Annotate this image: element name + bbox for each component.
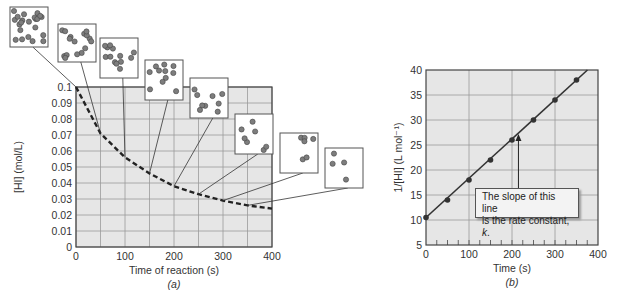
hi-molecule-icon [253,129,258,134]
data-point [509,137,515,143]
panel-label-b: (b) [506,276,519,288]
y-tick-a: 0.06 [52,145,73,157]
hi-molecule-icon [250,119,255,124]
molecule-inset [58,24,96,62]
hi-molecule-icon [84,29,89,34]
molecule-inset [190,78,228,118]
hi-molecule-icon [239,127,244,132]
molecule-inset [100,38,138,78]
y-tick-b: 15 [410,189,422,201]
hi-molecule-icon [33,25,38,30]
molecule-inset [280,133,318,173]
y-tick-a: 0.03 [52,193,73,205]
y-tick-b: 25 [410,139,422,151]
hi-molecule-icon [173,89,178,94]
hi-molecule-icon [41,39,46,44]
x-tick-a: 100 [116,250,134,262]
y-tick-b: 35 [410,89,422,101]
hi-molecule-icon [118,53,123,58]
y-tick-a: 0.1 [57,81,72,93]
y-tick-a: 0.02 [52,209,73,221]
y-tick-a: 0.01 [52,225,73,237]
hi-molecule-icon [30,39,35,44]
x-tick-b: 200 [503,248,521,260]
hi-molecule-icon [18,28,23,33]
y-tick-a: 0 [66,241,72,253]
hi-molecule-icon [13,37,18,42]
hi-molecule-icon [67,36,72,41]
hi-molecule-icon [304,155,309,160]
x-tick-a: 400 [263,250,281,262]
y-tick-b: 10 [410,214,422,226]
hi-molecule-icon [72,39,77,44]
hi-molecule-icon [163,68,168,73]
hi-molecule-icon [160,79,165,84]
data-point [552,97,558,103]
y-tick-b: 20 [410,164,422,176]
hi-molecule-icon [192,87,197,92]
chart-b: 5101520253035400100200300400Time (s)(b)1… [392,64,607,288]
hi-molecule-icon [108,54,113,59]
hi-molecule-icon [19,37,24,42]
hi-molecule-icon [114,61,119,66]
hi-molecule-icon [129,55,134,60]
data-point [574,77,580,83]
hi-molecule-icon [63,55,68,60]
hi-molecule-icon [171,63,176,68]
x-tick-b: 400 [589,248,607,260]
hi-molecule-icon [331,151,336,156]
hi-molecule-icon [41,33,46,38]
hi-molecule-icon [38,13,43,18]
hi-molecule-icon [302,139,307,144]
hi-molecule-icon [117,66,122,71]
chart-a: 00.010.020.030.040.050.060.070.080.090.1… [10,7,363,290]
hi-molecule-icon [220,91,225,96]
hi-molecule-icon [264,144,269,149]
hi-molecule-icon [197,107,202,112]
data-point [531,117,537,123]
y-tick-a: 0.07 [52,129,73,141]
data-point [488,157,494,163]
hi-molecule-icon [342,160,347,165]
y-tick-b: 30 [410,114,422,126]
hi-molecule-icon [242,136,247,141]
hi-molecule-icon [195,92,200,97]
y-tick-b: 40 [410,64,422,76]
y-label-a: [HI] (mol/L) [12,141,24,193]
hi-molecule-icon [26,19,31,24]
hi-molecule-icon [15,14,20,19]
hi-molecule-icon [215,109,220,114]
molecule-inset [235,114,273,154]
hi-molecule-icon [153,64,158,69]
y-tick-a: 0.05 [52,161,73,173]
x-tick-a: 0 [73,250,79,262]
hi-molecule-icon [26,34,31,39]
hi-molecule-icon [102,43,107,48]
y-tick-a: 0.08 [52,113,73,125]
hi-molecule-icon [21,12,26,17]
hi-molecule-icon [216,101,221,106]
hi-molecule-icon [107,43,112,48]
y-tick-b: 5 [416,239,422,251]
x-tick-a: 300 [214,250,232,262]
molecule-inset [325,148,363,188]
x-tick-b: 100 [460,248,478,260]
y-label-b: 1/[HI] (L mol⁻¹) [392,123,404,193]
y-tick-a: 0.04 [52,177,73,189]
hi-molecule-icon [11,8,16,13]
data-point [423,215,429,221]
x-tick-b: 300 [546,248,564,260]
hi-molecule-icon [171,70,176,75]
hi-molecule-icon [311,136,316,141]
hi-molecule-icon [75,52,80,57]
data-point [466,177,472,183]
slope-callout: The slope of this line is the rate const… [475,188,579,218]
hi-molecule-icon [63,29,68,34]
hi-molecule-icon [19,20,24,25]
hi-molecule-icon [330,161,335,166]
x-tick-a: 200 [165,250,183,262]
molecule-inset [10,7,48,47]
y-tick-a: 0.09 [52,97,73,109]
hi-molecule-icon [343,177,348,182]
x-label-b: Time (s) [493,262,531,274]
